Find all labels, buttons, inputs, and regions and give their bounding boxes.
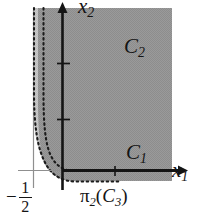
pi-symbol: π [80, 185, 90, 206]
region-label-c1: C1 [126, 142, 147, 163]
x-axis-label-sub: 1 [181, 169, 188, 184]
pi-argument-sub: 3 [115, 195, 121, 209]
fraction-numerator: 1 [19, 180, 31, 196]
region-label-c2-text: C [124, 34, 138, 58]
region-label-c2: C2 [124, 36, 145, 57]
minus-sign: − [6, 187, 17, 206]
x-axis-label-text: x [172, 158, 181, 182]
x-axis-label: x1 [172, 160, 188, 181]
x2-axis-arrowhead [58, 2, 68, 13]
y-axis-label-text: x [78, 0, 87, 18]
y-axis-label: x2 [78, 0, 94, 17]
pi-argument: C [102, 185, 115, 206]
region-label-c1-text: C [126, 140, 140, 164]
paren-close: ) [121, 185, 127, 206]
x-axis-tick-label-neg-one-half: − 1 2 [6, 180, 32, 216]
region-label-c1-sub: 1 [140, 151, 147, 166]
fraction-one-half: 1 2 [19, 180, 32, 216]
y-axis-label-sub: 2 [87, 5, 94, 20]
math-figure-region-plot: x2 x1 C2 C1 π2(C3) − 1 2 [0, 0, 200, 216]
region-c1-c2-shading [38, 8, 172, 181]
region-label-c2-sub: 2 [138, 45, 145, 60]
fraction-denominator: 2 [19, 199, 31, 215]
pi-subscript: 2 [90, 195, 96, 209]
projection-label-pi2-c3: π2(C3) [80, 186, 127, 205]
